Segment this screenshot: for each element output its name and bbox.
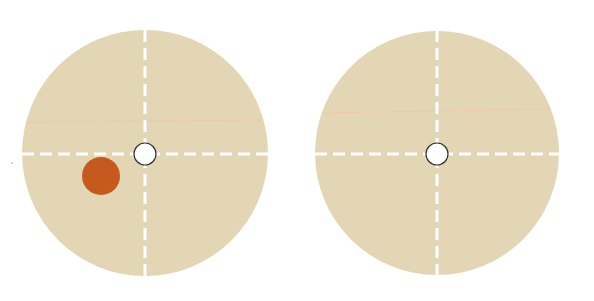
stray-dot — [11, 162, 13, 164]
left-disc — [22, 30, 268, 278]
right-center-hole — [426, 143, 448, 165]
left-marker-dot — [82, 157, 120, 195]
right-disc — [315, 30, 560, 278]
diagram-canvas — [0, 0, 594, 301]
left-center-hole — [134, 143, 156, 165]
